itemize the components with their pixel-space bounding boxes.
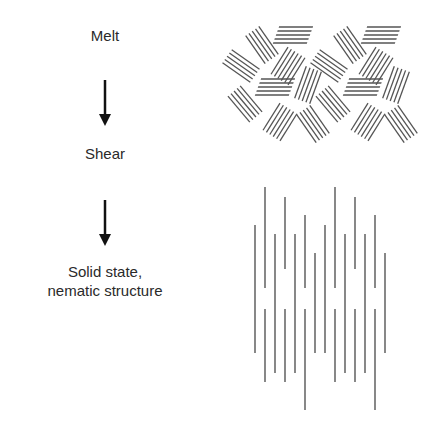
melt-domain-cell-left xyxy=(222,26,329,142)
arrow-melt-to-shear-icon xyxy=(99,80,111,126)
melt-structure-diagram xyxy=(222,26,417,142)
melt-domain-cell-right xyxy=(310,26,417,142)
nematic-structure-diagram xyxy=(255,187,385,410)
arrow-shear-to-solid-icon xyxy=(99,200,111,246)
